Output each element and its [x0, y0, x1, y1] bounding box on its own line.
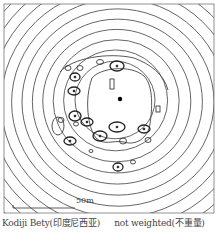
small-feature [65, 66, 71, 71]
scale-label: 50m [76, 196, 94, 205]
pit-center-dot [69, 140, 71, 142]
contour-ring [53, 40, 179, 162]
contour-ring [43, 29, 191, 173]
pit-center-dot [117, 166, 119, 168]
contour-ring [1, 0, 219, 214]
small-feature [74, 122, 79, 126]
contour-lines [0, 0, 219, 214]
map-border [4, 4, 214, 213]
rect-feature [110, 79, 114, 89]
contour-ring [75, 61, 155, 139]
contour-ring [32, 19, 202, 184]
rect-feature [156, 106, 160, 112]
small-feature [77, 66, 83, 71]
small-feature [89, 150, 93, 153]
small-feature [120, 138, 127, 144]
caption-right: not weighted(不重量) [114, 216, 205, 229]
pit-center-dot [99, 135, 101, 137]
caption-left: Kodiji Bety(印度尼西亚) [2, 216, 100, 229]
pit-center-dot [74, 76, 76, 78]
figure-caption: Kodiji Bety(印度尼西亚)not weighted(不重量) [2, 216, 219, 232]
pit-center-dot [143, 128, 145, 130]
small-feature [131, 160, 136, 164]
center-point [118, 97, 122, 101]
pit-center-dot [116, 126, 118, 128]
contour-map: 50m [0, 0, 219, 214]
pit-center-dot [73, 90, 75, 92]
pit-center-dot [86, 121, 88, 123]
pit-center-dot [116, 65, 118, 67]
pit-center-dot [74, 115, 76, 117]
